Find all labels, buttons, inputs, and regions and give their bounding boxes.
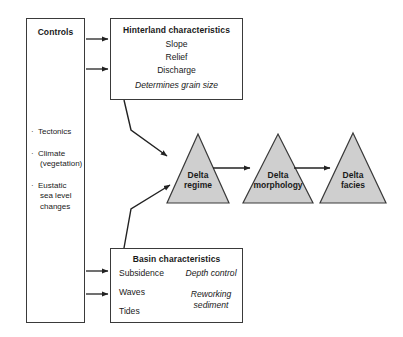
delta-regime-label-line2: regime bbox=[168, 180, 228, 190]
basin-note-depth-control: Depth control bbox=[181, 268, 241, 279]
basin-item-tides: Tides bbox=[119, 306, 140, 316]
delta-regime-label-line1: Delta bbox=[168, 170, 228, 180]
hinterland-characteristics-box: Hinterland characteristics Slope Relief … bbox=[110, 18, 243, 100]
arrow-hinterland-to-delta-regime bbox=[124, 100, 167, 156]
basin-title: Basin characteristics bbox=[111, 254, 242, 264]
controls-item-tectonics: · Tectonics bbox=[31, 127, 86, 138]
delta-facies-label: Delta facies bbox=[322, 170, 384, 190]
controls-item-sublabel: (vegetation) bbox=[38, 159, 86, 170]
hinterland-item-slope: Slope bbox=[111, 39, 242, 49]
basin-item-subsidence: Subsidence bbox=[119, 268, 164, 278]
controls-item-label: Climate bbox=[38, 149, 65, 158]
hinterland-title: Hinterland characteristics bbox=[111, 25, 242, 35]
hinterland-item-discharge: Discharge bbox=[111, 65, 242, 75]
arrow-basin-to-delta-regime bbox=[124, 185, 170, 248]
basin-note-reworking-sediment: Reworking sediment bbox=[181, 289, 241, 310]
bullet-icon: · bbox=[31, 127, 34, 138]
controls-item-climate: · Climate (vegetation) bbox=[31, 149, 86, 170]
bullet-icon: · bbox=[31, 149, 34, 160]
controls-box: Controls · Tectonics · Climate (vegetati… bbox=[26, 18, 85, 323]
basin-item-waves: Waves bbox=[119, 287, 145, 297]
delta-facies-label-line1: Delta bbox=[322, 170, 384, 180]
controls-item-sublabel: sea level bbox=[38, 191, 86, 202]
controls-item-eustatic: · Eustatic sea level changes bbox=[31, 181, 86, 213]
diagram-canvas: Controls · Tectonics · Climate (vegetati… bbox=[0, 0, 403, 337]
delta-morphology-label: Delta morphology bbox=[243, 170, 313, 190]
delta-morphology-label-line1: Delta bbox=[243, 170, 313, 180]
controls-item-label: Tectonics bbox=[38, 127, 71, 136]
controls-item-sublabel-2: changes bbox=[38, 202, 86, 213]
hinterland-item-relief: Relief bbox=[111, 52, 242, 62]
controls-item-label: Eustatic bbox=[38, 181, 66, 190]
delta-facies-label-line2: facies bbox=[322, 180, 384, 190]
hinterland-note: Determines grain size bbox=[111, 80, 242, 90]
controls-title: Controls bbox=[27, 27, 84, 37]
bullet-icon: · bbox=[31, 181, 34, 192]
basin-characteristics-box: Basin characteristics Subsidence Waves T… bbox=[110, 248, 243, 323]
delta-morphology-label-line2: morphology bbox=[243, 180, 313, 190]
delta-regime-label: Delta regime bbox=[168, 170, 228, 190]
controls-list: · Tectonics · Climate (vegetation) · Eus… bbox=[31, 127, 86, 223]
